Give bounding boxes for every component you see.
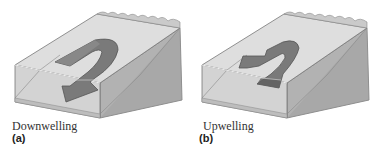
panel-caption: Downwelling xyxy=(12,120,77,132)
panel-caption: Upwelling xyxy=(203,120,254,132)
panel-downwelling: Downwelling (a) xyxy=(0,0,190,151)
panel-upwelling: Upwelling (b) xyxy=(187,0,377,151)
panel-label: (a) xyxy=(12,133,25,144)
panel-label: (b) xyxy=(199,133,213,144)
